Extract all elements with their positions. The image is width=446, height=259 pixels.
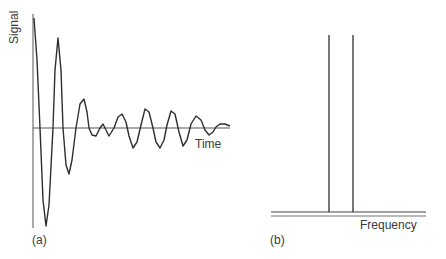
frequency-axis-label: Frequency [360,219,417,231]
panel-b-tag: (b) [270,234,285,246]
signal-axis-label: Signal [8,11,20,44]
frequency-peaks [329,35,353,212]
panel-a-tag: (a) [32,234,47,246]
decaying-signal-curve [34,18,230,226]
time-axis-label: Time [195,138,221,150]
